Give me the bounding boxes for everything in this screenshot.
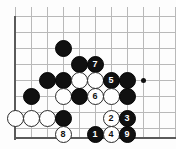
- stone-black-plain-3[interactable]: [39, 72, 56, 89]
- grid-line-vertical-8: [143, 7, 144, 137]
- stone-white-plain-4[interactable]: [103, 88, 120, 105]
- stone-white-move-6[interactable]: 6: [87, 88, 104, 105]
- stone-move-number: 9: [124, 129, 129, 138]
- stone-move-number: 8: [60, 129, 65, 138]
- stone-white-plain-3[interactable]: [55, 88, 72, 105]
- go-board-diagram: 756238149: [0, 0, 176, 149]
- stone-white-move-4[interactable]: 4: [103, 126, 120, 143]
- hoshi-right: [141, 78, 146, 83]
- stone-move-number: 1: [92, 129, 97, 138]
- stone-black-move-3[interactable]: 3: [119, 110, 136, 127]
- stone-black-plain-1[interactable]: [55, 40, 72, 57]
- stone-move-number: 4: [108, 129, 113, 138]
- grid-line-vertical-10: [175, 7, 176, 137]
- stone-black-plain-2[interactable]: [71, 56, 88, 73]
- stone-white-plain-2[interactable]: [87, 72, 104, 89]
- stone-move-number: 5: [108, 75, 113, 84]
- stone-black-plain-8[interactable]: [119, 88, 136, 105]
- stone-white-plain-5[interactable]: [7, 110, 24, 127]
- stone-move-number: 6: [92, 91, 97, 100]
- stone-black-plain-6[interactable]: [23, 88, 40, 105]
- stone-white-plain-6[interactable]: [23, 110, 40, 127]
- stone-black-move-9[interactable]: 9: [119, 126, 136, 143]
- stone-move-number: 7: [92, 59, 97, 68]
- stone-black-move-7[interactable]: 7: [87, 56, 104, 73]
- stone-black-move-1[interactable]: 1: [87, 126, 104, 143]
- stone-white-move-8[interactable]: 8: [55, 126, 72, 143]
- stone-white-plain-1[interactable]: [71, 72, 88, 89]
- stone-black-plain-5[interactable]: [119, 72, 136, 89]
- stone-black-plain-4[interactable]: [55, 72, 72, 89]
- stone-black-plain-9[interactable]: [55, 110, 72, 127]
- stone-white-move-2[interactable]: 2: [103, 110, 120, 127]
- stone-move-number: 3: [124, 113, 129, 122]
- stone-black-plain-7[interactable]: [71, 88, 88, 105]
- grid-line-vertical-9: [159, 7, 160, 137]
- stone-black-move-5[interactable]: 5: [103, 72, 120, 89]
- stone-move-number: 2: [108, 113, 113, 122]
- stone-white-plain-7[interactable]: [39, 110, 56, 127]
